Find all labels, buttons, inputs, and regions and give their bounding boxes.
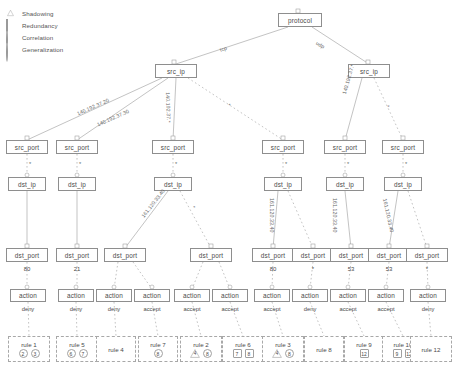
edge-label-dstip-c: 161.120.33.40 xyxy=(269,198,275,232)
edge-label-dstip-d: 161.120.33.40 xyxy=(332,198,338,232)
node-action[interactable]: action xyxy=(368,289,404,302)
rule-node[interactable]: rule 248 xyxy=(180,336,222,362)
edge-label-srcip-c: 140.192.37.* xyxy=(165,92,172,123)
node-src-ip[interactable]: src_ip xyxy=(155,64,197,78)
rule-title: rule 2 xyxy=(193,341,208,348)
node-action[interactable]: action xyxy=(174,289,210,302)
rule-badges: 48 xyxy=(272,349,294,358)
circle-badge-icon: 3 xyxy=(31,349,40,358)
node-dst-port[interactable]: dst_port xyxy=(252,248,294,262)
node-dst-port[interactable]: dst_port xyxy=(292,248,334,262)
rule-node[interactable]: rule 123 xyxy=(8,336,50,362)
node-src-port[interactable]: src_port xyxy=(382,140,424,154)
node-dst-port[interactable]: dst_port xyxy=(190,248,232,262)
action-value: deny xyxy=(294,306,326,312)
triangle-icon xyxy=(6,8,17,19)
node-dst-ip[interactable]: dst_ip xyxy=(58,177,96,191)
rule-node[interactable]: rule 4 xyxy=(96,336,136,362)
node-dst-ip[interactable]: dst_ip xyxy=(8,177,46,191)
circle-badge-icon: 7 xyxy=(79,349,88,358)
node-src-port[interactable]: src_port xyxy=(324,140,366,154)
node-action[interactable]: action xyxy=(134,289,170,302)
node-action[interactable]: action xyxy=(330,289,366,302)
circle-badge-icon: 2 xyxy=(19,349,28,358)
rule-title: rule 5 xyxy=(69,341,84,348)
rule-title: rule 12 xyxy=(422,346,441,353)
node-action[interactable]: action xyxy=(10,289,46,302)
rule-node[interactable]: rule 348 xyxy=(262,336,304,362)
rule-title: rule 8 xyxy=(316,346,331,353)
circle-badge-icon: 8 xyxy=(154,349,163,358)
action-value: accept xyxy=(370,306,402,312)
square-badge-icon: 9 xyxy=(393,349,402,358)
legend-label-correlation: Correlation xyxy=(22,32,53,43)
rule-badges: 67 xyxy=(67,349,88,358)
rule-node[interactable]: rule 567 xyxy=(56,336,98,362)
node-dst-port[interactable]: dst_port xyxy=(406,248,448,262)
triangle-badge-icon: 4 xyxy=(272,349,282,358)
dst-port-value: * xyxy=(301,266,325,272)
node-dst-ip[interactable]: dst_ip xyxy=(326,177,364,191)
dst-port-value: 21 xyxy=(65,266,89,272)
node-action[interactable]: action xyxy=(254,289,290,302)
rule-title: rule 6 xyxy=(235,341,250,348)
action-value: accept xyxy=(332,306,364,312)
node-src-port[interactable]: src_port xyxy=(262,140,304,154)
legend-label-generalization: Generalization xyxy=(22,44,63,55)
dst-port-value: 80 xyxy=(15,266,39,272)
node-dst-port[interactable]: dst_port xyxy=(56,248,98,262)
action-value: accept xyxy=(176,306,208,312)
legend-item-redundancy: Redundancy xyxy=(6,20,92,31)
legend: Shadowing Redundancy Correlation General… xyxy=(6,8,92,56)
rule-badges: 78 xyxy=(233,349,254,358)
square-badge-icon: 7 xyxy=(233,349,242,358)
rule-title: rule 9 xyxy=(356,341,371,348)
rule-node[interactable]: rule 678 xyxy=(222,336,264,362)
dst-port-value: 53 xyxy=(339,266,363,272)
action-value: deny xyxy=(412,306,444,312)
edge-label-srcport-5: * xyxy=(347,161,349,167)
dst-port-value: 80 xyxy=(261,266,285,272)
rule-node[interactable]: rule 912 xyxy=(344,336,384,362)
edge-label-srcport-6: * xyxy=(405,161,407,167)
rule-title: rule 4 xyxy=(108,346,123,353)
action-value: accept xyxy=(256,306,288,312)
node-src-port[interactable]: src_port xyxy=(6,140,48,154)
square-badge-icon: 8 xyxy=(245,349,254,358)
edge-label-srcport-1: * xyxy=(29,161,31,167)
rule-node[interactable]: rule 8 xyxy=(304,336,344,362)
node-dst-port[interactable]: dst_port xyxy=(104,248,146,262)
edge-label-srcport-2: * xyxy=(79,161,81,167)
dst-port-value: 53 xyxy=(377,266,401,272)
node-action[interactable]: action xyxy=(212,289,248,302)
rule-node[interactable]: rule 78 xyxy=(138,336,178,362)
triangle-badge-icon: 4 xyxy=(190,349,200,358)
rule-badges: 8 xyxy=(154,349,163,358)
node-action[interactable]: action xyxy=(96,289,132,302)
rule-node[interactable]: rule 12 xyxy=(410,336,452,362)
legend-item-shadowing: Shadowing xyxy=(6,8,92,19)
rule-title: rule 7 xyxy=(150,341,165,348)
circle-badge-icon: 8 xyxy=(203,349,212,358)
node-dst-ip[interactable]: dst_ip xyxy=(264,177,302,191)
node-src-port[interactable]: src_port xyxy=(56,140,98,154)
node-dst-port[interactable]: dst_port xyxy=(368,248,410,262)
node-dst-port[interactable]: dst_port xyxy=(6,248,48,262)
legend-label-shadowing: Shadowing xyxy=(22,8,54,19)
node-src-port[interactable]: src_port xyxy=(152,140,194,154)
node-action[interactable]: action xyxy=(58,289,94,302)
rule-badges: 23 xyxy=(19,349,40,358)
rule-title: rule 3 xyxy=(275,341,290,348)
node-dst-ip[interactable]: dst_ip xyxy=(384,177,422,191)
node-action[interactable]: action xyxy=(292,289,328,302)
rule-badges: 12 xyxy=(360,349,369,358)
legend-item-correlation: Correlation xyxy=(6,32,92,43)
edge-label-srcport-3: * xyxy=(175,161,177,167)
rule-badges: 48 xyxy=(190,349,212,358)
node-action[interactable]: action xyxy=(410,289,446,302)
node-protocol[interactable]: protocol xyxy=(278,13,322,27)
diagram-canvas: Shadowing Redundancy Correlation General… xyxy=(0,0,453,374)
action-value: deny xyxy=(12,306,44,312)
node-dst-port[interactable]: dst_port xyxy=(330,248,372,262)
legend-label-redundancy: Redundancy xyxy=(22,20,58,31)
